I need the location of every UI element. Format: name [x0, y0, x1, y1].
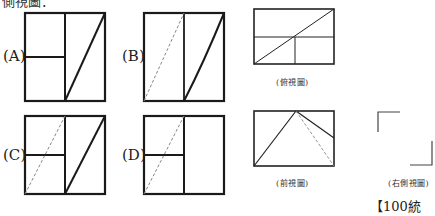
front-view-figure — [254, 111, 334, 166]
option-b-figure[interactable] — [144, 13, 224, 101]
option-d-figure[interactable] — [144, 116, 224, 194]
option-a-figure[interactable] — [25, 13, 105, 101]
option-a-label[interactable]: (A) — [3, 49, 26, 64]
drawing-canvas — [0, 0, 435, 216]
top-view-caption: (俯視圖) — [276, 76, 309, 87]
option-c-figure[interactable] — [25, 116, 105, 194]
right-side-view-figure — [378, 112, 432, 165]
option-c-label[interactable]: (C) — [3, 148, 26, 163]
top-view-figure — [254, 9, 334, 64]
source-tag: 【100統測】 — [370, 196, 435, 216]
option-d-label[interactable]: (D) — [122, 148, 146, 163]
option-b-label[interactable]: (B) — [122, 49, 145, 64]
right-view-caption: (右側視圖) — [388, 177, 429, 188]
front-view-caption: (前視圖) — [276, 177, 309, 188]
